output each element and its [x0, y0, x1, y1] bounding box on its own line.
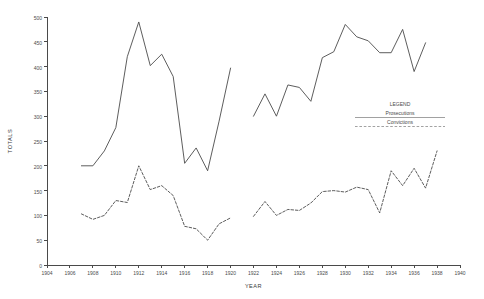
x-axis-tick-label: 1922 [248, 270, 259, 276]
y-axis-tick-label: 500 [34, 15, 43, 21]
y-axis-tick-label: 300 [34, 114, 43, 120]
series-prosecutions-segment-0 [81, 22, 230, 171]
x-axis-tick-label: 1926 [294, 270, 305, 276]
x-axis-tick-label: 1910 [110, 270, 121, 276]
x-axis-tick-label: 1908 [87, 270, 98, 276]
series-convictions-segment-0 [81, 166, 230, 240]
legend-label-convictions: Convictions [387, 119, 413, 125]
series-layer [81, 22, 437, 240]
y-axis-tick-label: 200 [34, 164, 43, 170]
x-axis-tick-label: 1912 [133, 270, 144, 276]
x-axis-tick-label: 1916 [179, 270, 190, 276]
chart-container: 050100150200250300350400450500 190419061… [0, 0, 484, 299]
x-axis-tick-label: 1914 [156, 270, 167, 276]
y-axis-tick-label: 50 [36, 238, 42, 244]
x-axis-tick-label: 1934 [386, 270, 397, 276]
x-axis-tick-label: 1928 [317, 270, 328, 276]
y-axis-tick-label: 0 [39, 263, 42, 269]
series-convictions-segment-1 [254, 151, 438, 216]
y-axis-tick-label: 350 [34, 89, 43, 95]
y-axis-tick-label: 400 [34, 65, 43, 71]
x-axis-tick-label: 1932 [363, 270, 374, 276]
x-axis-tick-label: 1936 [409, 270, 420, 276]
x-axis-tick-label: 1918 [202, 270, 213, 276]
y-axis-title: TOTALS [7, 129, 13, 153]
legend-label-prosecutions: Prosecutions [386, 110, 415, 116]
x-axis-tick-label: 1920 [225, 270, 236, 276]
x-axis-tick-label: 1938 [431, 270, 442, 276]
y-axis-tick-label: 250 [34, 139, 43, 145]
legend: LEGENDProsecutionsConvictions [355, 101, 445, 127]
line-chart: 050100150200250300350400450500 190419061… [0, 0, 484, 299]
x-axis-tick-label: 1930 [340, 270, 351, 276]
x-axis: 1904190619081910191219141916191819201922… [41, 265, 465, 276]
x-axis-tick-label: 1924 [271, 270, 282, 276]
x-axis-title: YEAR [245, 283, 262, 289]
legend-title: LEGEND [390, 101, 411, 107]
y-axis-tick-label: 450 [34, 40, 43, 46]
x-axis-tick-label: 1940 [454, 270, 465, 276]
y-axis: 050100150200250300350400450500 [34, 15, 47, 269]
x-axis-tick-label: 1906 [64, 270, 75, 276]
x-axis-tick-label: 1904 [41, 270, 52, 276]
y-axis-tick-label: 100 [34, 213, 43, 219]
y-axis-tick-label: 150 [34, 189, 43, 195]
